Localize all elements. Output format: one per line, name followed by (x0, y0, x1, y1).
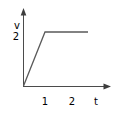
x-axis-label: t (90, 90, 102, 109)
velocity-data-line (24, 32, 89, 86)
velocity-time-graph-figure: v 2 1 2 t (0, 0, 119, 113)
x-axis-arrow-icon (104, 84, 112, 90)
x-tick-label-1: 1 (39, 90, 51, 109)
x-tick-label-2: 2 (66, 90, 78, 109)
y-tick-label-2: 2 (10, 25, 22, 44)
